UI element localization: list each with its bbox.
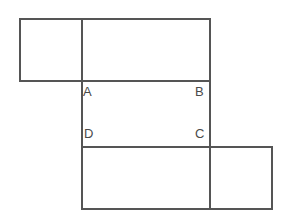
center-rectangle: [82, 81, 210, 147]
diagram-drawing: [0, 0, 286, 218]
geometry-diagram: A B D C: [0, 0, 286, 218]
top-left-rectangle: [20, 19, 82, 81]
top-right-rectangle: [82, 19, 210, 81]
bottom-left-rectangle: [82, 147, 210, 209]
vertex-label-a: A: [83, 85, 92, 98]
bottom-right-rectangle: [210, 147, 272, 209]
vertex-label-b: B: [195, 85, 204, 98]
vertex-label-c: C: [195, 127, 204, 140]
vertex-label-d: D: [84, 127, 93, 140]
